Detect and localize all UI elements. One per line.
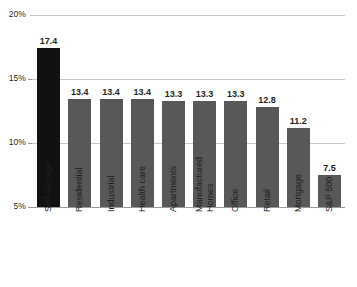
x-axis-category-label: Residential (74, 136, 85, 212)
y-axis-tickmark (28, 79, 32, 80)
bar-value-label: 11.2 (281, 116, 316, 126)
bar-value-label: 13.4 (94, 87, 129, 97)
plot-area: 20%15%10%5%17.4Self-Storage13.4Residenti… (0, 0, 357, 287)
bar-value-label: 12.8 (250, 95, 285, 105)
gridline-15pct (30, 79, 345, 80)
y-axis-label: 15% (0, 74, 26, 83)
x-axis-category-label: Office (230, 136, 241, 212)
y-axis-tickmark (28, 207, 32, 208)
x-axis-category-label: Apartments (168, 136, 179, 212)
bar-value-label: 13.3 (187, 89, 222, 99)
bar-chart: 20%15%10%5%17.4Self-Storage13.4Residenti… (0, 0, 357, 287)
bar-value-label: 13.4 (125, 87, 160, 97)
x-axis-category-label: Industrial (106, 136, 117, 212)
bar-value-label: 13.3 (218, 89, 253, 99)
y-axis-label: 20% (0, 10, 26, 19)
x-axis-category-label: Mortgage (293, 136, 304, 212)
x-axis-category-label: Self-Storage (43, 136, 54, 212)
y-axis-label: 5% (0, 202, 26, 211)
x-axis-category-label: Retail (262, 136, 273, 212)
gridline-20pct (30, 15, 345, 16)
bar-value-label: 17.4 (31, 36, 66, 46)
x-axis-category-label: Manufactured Homes (194, 136, 215, 212)
x-axis-category-label: Health care (137, 136, 148, 212)
x-axis-category-label: S&P 500 (324, 136, 335, 212)
y-axis-label: 10% (0, 138, 26, 147)
bar-value-label: 13.4 (62, 87, 97, 97)
y-axis-tickmark (28, 143, 32, 144)
bar-value-label: 13.3 (156, 89, 191, 99)
